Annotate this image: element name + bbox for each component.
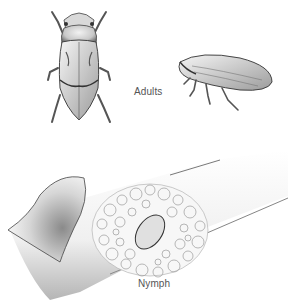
illustration-canvas [0, 0, 292, 303]
nymph-label: Nymph [138, 278, 170, 289]
adult-side-illustration [179, 55, 272, 110]
adults-label: Adults [134, 86, 162, 97]
adult-dorsal-illustration [48, 12, 110, 122]
